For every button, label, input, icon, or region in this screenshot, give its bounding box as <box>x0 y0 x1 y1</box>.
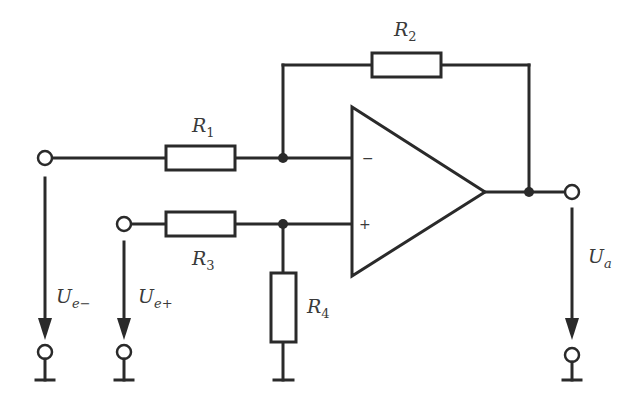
noninverting-sign: + <box>359 216 371 232</box>
inverting-sign: − <box>362 150 374 166</box>
resistor-r3: R3 <box>166 212 235 273</box>
resistor-r2: R2 <box>372 18 441 77</box>
junction-noninverting <box>278 219 288 229</box>
ua-voltage: Ua <box>563 185 612 380</box>
ue-plus-label: Ue+ <box>138 285 173 311</box>
terminal-ua <box>565 185 579 199</box>
arrow-down-icon <box>38 318 52 340</box>
r3-label: R3 <box>191 247 215 273</box>
arrow-down-icon <box>117 318 131 340</box>
terminal-ue-minus <box>38 151 52 165</box>
junction-output <box>524 187 534 197</box>
circuit-svg: R2 R1 R3 R4 − + <box>0 0 640 408</box>
terminal-ue-plus <box>117 217 131 231</box>
arrow-down-icon <box>565 318 579 340</box>
terminal-ue-plus-ground <box>117 345 131 359</box>
terminal-ua-ground <box>565 348 579 362</box>
ue-minus-label: Ue− <box>56 285 91 311</box>
resistor-r4: R4 <box>271 273 330 342</box>
circuit-diagram: R2 R1 R3 R4 − + <box>0 0 640 408</box>
op-amp: − + <box>352 107 485 276</box>
ue-plus-voltage: Ue+ <box>115 217 173 380</box>
r4-label: R4 <box>306 295 330 321</box>
resistor-r1: R1 <box>166 114 235 170</box>
r2-label: R2 <box>393 18 417 44</box>
ua-label: Ua <box>588 245 612 271</box>
junction-inverting <box>278 153 288 163</box>
terminal-ue-minus-ground <box>38 345 52 359</box>
r1-label: R1 <box>191 114 215 140</box>
ue-minus-voltage: Ue− <box>36 151 91 380</box>
